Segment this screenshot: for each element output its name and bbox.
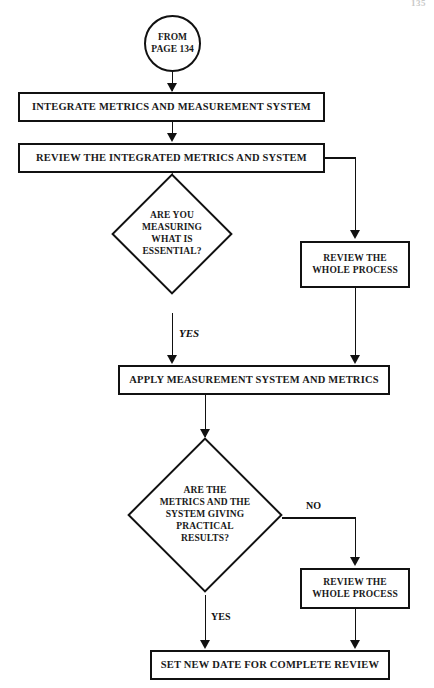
edge-review-right-segment: [325, 157, 356, 159]
decision-practical-line-2: METRICS AND THE: [160, 497, 251, 507]
review-whole-2-line-1: REVIEW THE: [323, 577, 387, 587]
arrowhead-practical-yes-to-set-new-date: [200, 640, 210, 649]
decision-essential-line-4: ESSENTIAL?: [142, 246, 201, 256]
page-number: 135: [411, 0, 426, 8]
connector-line-2: PAGE 134: [151, 44, 193, 54]
decision-are-you-measuring-essential: ARE YOU MEASURING WHAT IS ESSENTIAL?: [129, 191, 215, 277]
process-review-integrated-label: REVIEW THE INTEGRATED METRICS AND SYSTEM: [36, 152, 307, 164]
edge-label-essential-yes: YES: [179, 327, 199, 339]
process-review-whole-process-1: REVIEW THE WHOLE PROCESS: [300, 241, 410, 288]
decision-essential-line-3: WHAT IS: [151, 234, 192, 244]
process-integrate-metrics: INTEGRATE METRICS AND MEASUREMENT SYSTEM: [18, 92, 325, 122]
arrowhead-to-integrate: [167, 83, 177, 92]
process-apply-measurement: APPLY MEASUREMENT SYSTEM AND METRICS: [118, 365, 390, 395]
process-review-integrated: REVIEW THE INTEGRATED METRICS AND SYSTEM: [18, 143, 325, 173]
arrowhead-review-whole-1-to-apply: [350, 355, 360, 364]
process-set-new-date: SET NEW DATE FOR COMPLETE REVIEW: [150, 650, 390, 680]
review-whole-1-line-2: WHOLE PROCESS: [312, 265, 398, 275]
edge-review-down-segment: [355, 157, 357, 233]
decision-practical-line-1: ARE THE: [183, 485, 226, 495]
decision-practical-results: ARE THE METRICS AND THE SYSTEM GIVING PR…: [150, 460, 260, 570]
arrowhead-to-review-integrated: [167, 133, 177, 142]
process-integrate-label: INTEGRATE METRICS AND MEASUREMENT SYSTEM: [32, 101, 311, 113]
connector-line-1: FROM: [158, 32, 187, 42]
decision-essential-line-2: MEASURING: [142, 222, 202, 232]
process-review-whole-process-2: REVIEW THE WHOLE PROCESS: [300, 568, 410, 609]
arrowhead-essential-yes-to-apply: [167, 355, 177, 364]
edge-practical-yes-to-set-new-date: [205, 595, 207, 643]
review-whole-1-line-1: REVIEW THE: [323, 253, 387, 263]
process-apply-label: APPLY MEASUREMENT SYSTEM AND METRICS: [129, 374, 379, 386]
connector-from-page-134: FROM PAGE 134: [144, 15, 201, 72]
decision-practical-line-5: RESULTS?: [181, 533, 229, 543]
arrowhead-to-review-whole-1: [350, 230, 360, 239]
decision-essential-line-1: ARE YOU: [150, 210, 194, 220]
edge-review-whole-2-to-set-new-date: [355, 609, 357, 643]
arrowhead-practical-no-to-review-whole-2: [350, 557, 360, 566]
edge-review-whole-1-to-apply: [355, 288, 357, 358]
review-whole-2-line-2: WHOLE PROCESS: [312, 589, 398, 599]
decision-practical-line-4: PRACTICAL: [176, 521, 233, 531]
edge-practical-no-down-segment: [355, 517, 357, 560]
flowchart-page: 135 FROM PAGE 134 INTEGRATE METRICS AND …: [0, 0, 434, 688]
arrowhead-review-whole-2-to-set-new-date: [350, 640, 360, 649]
edge-essential-yes-to-apply: [172, 313, 174, 358]
edge-label-practical-no: NO: [306, 500, 321, 511]
process-set-new-date-label: SET NEW DATE FOR COMPLETE REVIEW: [161, 659, 379, 671]
edge-practical-no-right-segment: [282, 517, 356, 519]
decision-essential-label: ARE YOU MEASURING WHAT IS ESSENTIAL?: [129, 191, 215, 277]
decision-practical-label: ARE THE METRICS AND THE SYSTEM GIVING PR…: [150, 460, 260, 570]
edge-label-practical-yes: YES: [211, 611, 230, 622]
decision-practical-line-3: SYSTEM GIVING: [166, 509, 245, 519]
